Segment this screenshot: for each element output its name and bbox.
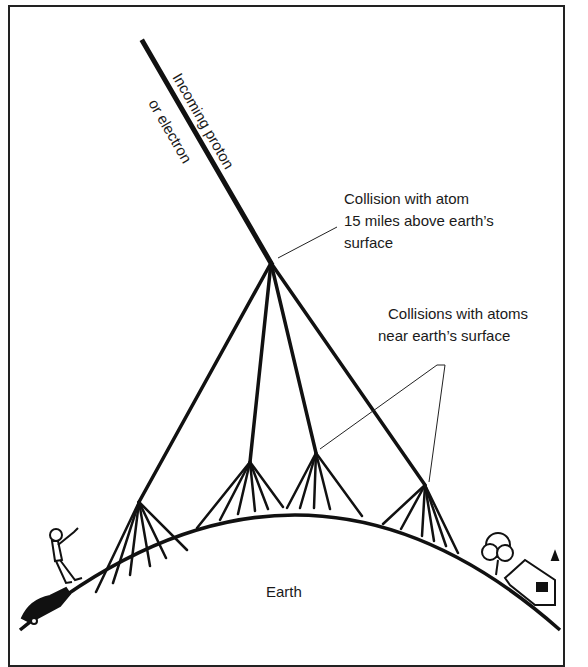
- tree-figure: [482, 533, 513, 575]
- leader-line-lower-a: [320, 365, 437, 449]
- person-figure: [50, 528, 82, 583]
- collision-upper-label-line3: surface: [344, 233, 393, 253]
- secondary-shower-3: [287, 453, 362, 516]
- house-figure: [505, 552, 558, 605]
- collision-upper-label-line2: 15 miles above earth’s: [344, 211, 494, 231]
- collision-upper-label-line1: Collision with atom: [344, 189, 469, 209]
- secondary-shower-1: [96, 502, 187, 592]
- secondary-shower-4: [383, 485, 458, 553]
- collision-lower-label-line2: near earth’s surface: [378, 326, 510, 346]
- leader-line-lower-b: [429, 365, 445, 482]
- leader-line-upper: [278, 227, 337, 258]
- primary-branches: [139, 263, 425, 502]
- earth-label: Earth: [266, 582, 302, 602]
- incoming-particle-track: [143, 42, 271, 263]
- earth-surface: [20, 515, 560, 630]
- collision-lower-label-line1: Collisions with atoms: [388, 304, 528, 324]
- diagram-canvas: Incoming proton or electron Collision wi…: [0, 0, 588, 667]
- car-figure: [22, 588, 70, 624]
